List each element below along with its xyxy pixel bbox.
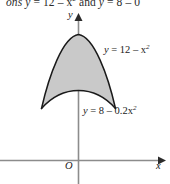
figure-canvas — [0, 0, 170, 184]
upper-curve-equation-label: y = 12 – x2 — [104, 45, 150, 56]
parabola-region-figure: ons y = 12 – x2 and y = 8 – 0 y = 12 – x… — [0, 0, 170, 184]
y-axis-arrowhead — [75, 13, 83, 21]
lower-curve-equation-label: y = 8 – 0.2x2 — [83, 106, 136, 117]
x-axis-label: x — [156, 161, 161, 172]
origin-label: O — [65, 161, 73, 172]
y-axis-label: y — [68, 10, 73, 21]
lower-eq-exponent: 2 — [133, 104, 137, 112]
upper-eq-rhs: = 12 – x — [109, 44, 146, 55]
upper-eq-exponent: 2 — [146, 43, 150, 51]
lower-eq-rhs: = 8 – 0.2x — [88, 105, 133, 116]
